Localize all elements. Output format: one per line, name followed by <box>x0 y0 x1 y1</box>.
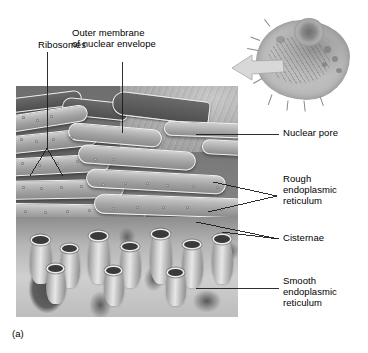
ribosome <box>112 158 115 161</box>
cell-organelle <box>276 36 285 43</box>
ribosome <box>36 119 39 122</box>
tubule-opening <box>122 243 138 250</box>
ribosome <box>102 183 105 186</box>
ribosome <box>24 210 27 213</box>
label-nuclear-pore: Nuclear pore <box>283 128 367 139</box>
nuclear-envelope-slab <box>164 121 238 139</box>
tubule-opening <box>168 269 183 276</box>
ribosome <box>76 160 79 163</box>
figure-caption: (a) <box>12 328 24 339</box>
tubule-opening <box>48 265 63 272</box>
ribosome <box>52 138 55 141</box>
ribosome <box>162 206 165 209</box>
tubule-opening <box>214 235 230 243</box>
label-rough-er: Rough endoplasmic reticulum <box>283 174 367 206</box>
ribosome <box>38 164 41 167</box>
ribosome <box>94 158 97 161</box>
label-cisternae: Cisternae <box>283 233 367 244</box>
cell-organelle <box>322 62 327 67</box>
label-smooth-er: Smooth endoplasmic reticulum <box>283 276 367 308</box>
er-figure: Nucleus <box>0 0 368 353</box>
cell-organelle <box>332 56 338 62</box>
cilium <box>304 100 306 111</box>
ribosome <box>20 138 23 141</box>
cilium <box>286 100 288 110</box>
ribosome <box>192 185 195 188</box>
er-illustration-panel: Nucleus <box>16 86 238 317</box>
ribosome <box>66 210 69 213</box>
cell-organelle <box>336 68 342 73</box>
cilium <box>320 96 324 106</box>
cilium <box>253 78 262 84</box>
tubule-opening <box>152 230 169 238</box>
cilium <box>268 94 273 105</box>
nuclear-envelope-slab <box>202 139 238 156</box>
ribosome <box>124 182 127 185</box>
cilium <box>250 37 260 41</box>
ribosome <box>186 206 189 209</box>
ribosome <box>70 136 73 139</box>
ribosome <box>22 186 25 189</box>
tubule-opening <box>62 245 77 252</box>
cell-nucleus <box>294 18 324 46</box>
ribosome <box>220 208 223 211</box>
ribosome <box>21 162 24 165</box>
ribosome <box>88 209 91 212</box>
ribosome <box>146 182 149 185</box>
label-outer-membrane: Outer membrane of nuclear envelope <box>72 28 186 50</box>
tubule-opening <box>106 267 121 274</box>
tubule-opening <box>184 241 200 248</box>
ribosome <box>80 185 83 188</box>
ribosome <box>22 116 25 119</box>
ribosome <box>112 207 115 210</box>
ribosome <box>56 162 59 165</box>
ribosome <box>216 186 219 189</box>
ribosome <box>40 187 43 190</box>
tubule-opening <box>32 236 49 244</box>
cell-organelle <box>324 46 331 53</box>
cilium <box>264 19 270 27</box>
whole-cell-inset <box>246 6 358 110</box>
ribosome <box>60 186 63 189</box>
ribosome <box>166 184 169 187</box>
ribosome <box>136 206 139 209</box>
ribosome <box>35 140 38 143</box>
ribosome <box>44 211 47 214</box>
cilium <box>247 48 258 51</box>
tubule-opening <box>90 232 107 240</box>
ribosome <box>50 115 53 118</box>
